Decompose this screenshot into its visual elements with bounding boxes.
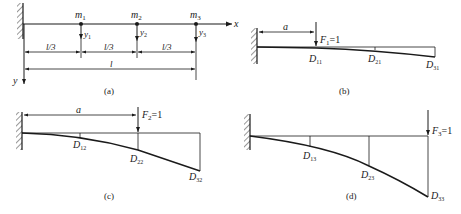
panel-b: a F1=1 D11 D21 D31 (b) — [251, 21, 439, 96]
deflection-d22-label: D22 — [129, 153, 143, 165]
segment-2-label: l/3 — [104, 42, 114, 52]
mass-3-dot — [194, 22, 198, 26]
distance-a-label: a — [283, 21, 288, 32]
deflection-d21-label: D21 — [367, 53, 381, 65]
displacement-1-label: y1 — [83, 29, 91, 40]
x-axis-label: x — [233, 18, 239, 29]
fixed-support-wall — [251, 28, 257, 64]
mass-2-label: m2 — [131, 9, 142, 22]
fixed-support-wall — [16, 112, 22, 150]
deflection-curve — [22, 133, 200, 171]
deflection-d12-label: D12 — [72, 139, 86, 151]
deflection-d13-label: D13 — [302, 150, 316, 162]
panel-c: a F2=1 D12 D22 D32 (c) — [16, 104, 202, 201]
fixed-support-wall — [17, 3, 23, 39]
mass-2-dot — [135, 22, 139, 26]
deflection-curve — [257, 47, 435, 57]
mass-1-label: m1 — [75, 9, 86, 22]
mass-1-dot — [79, 22, 83, 26]
deflection-d11-label: D11 — [308, 53, 322, 65]
deflection-curve — [250, 136, 428, 197]
caption-d: (d) — [346, 191, 357, 201]
distance-a-label: a — [76, 104, 81, 115]
deflection-d33-label: D33 — [430, 190, 444, 202]
displacement-3-label: y3 — [198, 27, 206, 38]
y-axis-label: y — [12, 75, 18, 86]
deflection-d32-label: D32 — [188, 171, 202, 183]
mass-3-label: m3 — [190, 9, 201, 22]
caption-c: (c) — [104, 191, 114, 201]
fixed-support-wall — [244, 114, 250, 150]
caption-b: (b) — [339, 86, 350, 96]
panel-d: F3=1 D13 D23 D33 (d) — [244, 110, 452, 202]
force-label: F3=1 — [431, 125, 452, 138]
cantilever-influence-diagram: x y m1 m2 m3 y1 y2 y3 l/3 l/3 l/3 l (a) — [0, 0, 461, 214]
force-label: F2=1 — [141, 109, 162, 122]
deflection-d31-label: D31 — [425, 59, 439, 71]
segment-3-label: l/3 — [162, 42, 172, 52]
segment-1-label: l/3 — [46, 42, 56, 52]
force-label: F1=1 — [319, 34, 340, 47]
total-length-label: l — [110, 59, 113, 69]
deflection-d23-label: D23 — [360, 169, 374, 181]
panel-a: x y m1 m2 m3 y1 y2 y3 l/3 l/3 l/3 l (a) — [12, 3, 239, 96]
caption-a: (a) — [104, 86, 114, 96]
displacement-2-label: y2 — [139, 27, 147, 38]
